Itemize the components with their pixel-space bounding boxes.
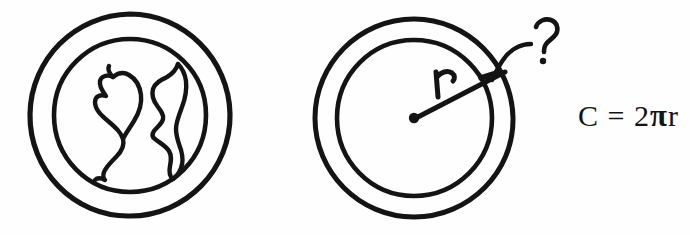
globe-outer-circle	[30, 14, 230, 216]
globe-continent-left	[95, 66, 124, 180]
formula-lhs: C	[578, 99, 599, 132]
globe-continent-right-edge	[173, 64, 186, 179]
formula-radius-symbol: r	[668, 99, 679, 132]
formula-pi-symbol: π	[650, 98, 668, 133]
diagram-canvas: C = 2πr Circumference of a circle illust…	[0, 0, 690, 235]
circumference-formula: C = 2πr	[578, 98, 679, 134]
globe-inner-circle	[54, 39, 206, 192]
center-dot	[409, 113, 419, 123]
formula-equals: =	[608, 99, 626, 132]
circle-radius-figure	[315, 19, 531, 217]
formula-coefficient: 2	[634, 99, 650, 132]
globe-continent-right	[152, 64, 178, 179]
globe-figure	[30, 14, 230, 216]
question-mark-label	[536, 19, 557, 64]
radius-label	[436, 72, 454, 97]
